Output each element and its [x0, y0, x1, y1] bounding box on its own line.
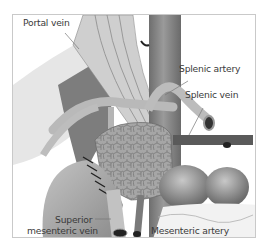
label-splenic-vein: Splenic vein: [185, 89, 238, 100]
label-splenic-artery: Splenic artery: [179, 63, 240, 74]
label-portal-vein: Portal vein: [23, 17, 70, 28]
label-superior-mesenteric-vein-line1: Superior: [55, 214, 92, 225]
splenic-artery-cut-end: [204, 116, 214, 130]
diagram-frame: Portal vein Splenic artery Splenic vein …: [12, 14, 256, 238]
bowel-loop-2: [205, 167, 249, 207]
label-superior-mesenteric-vein-line2: mesenteric vein: [27, 225, 98, 236]
bowel-loop-1: [159, 165, 211, 209]
label-mesenteric-artery: Mesenteric artery: [151, 225, 229, 236]
anatomy-illustration: [13, 15, 256, 238]
